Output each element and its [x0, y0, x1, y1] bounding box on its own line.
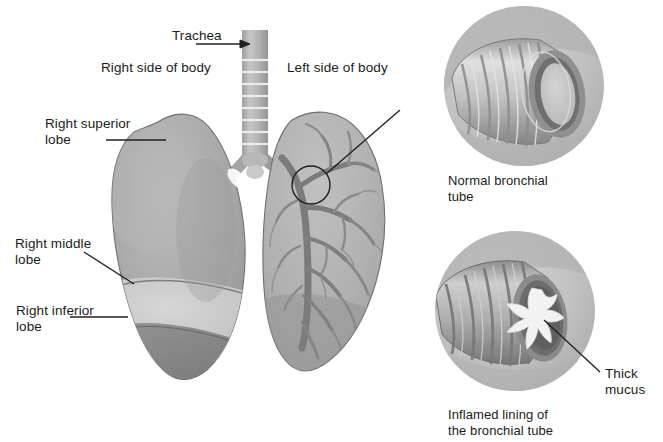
caption-inflamed-lining: Inflamed lining of the bronchial tube: [448, 407, 553, 438]
caption-normal-bronchial-tube: Normal bronchial tube: [448, 173, 548, 204]
label-left-side-of-body: Left side of body: [287, 60, 388, 76]
lung-anatomy-figure: Trachea Right side of body Left side of …: [0, 0, 663, 442]
label-thick-mucus: Thick mucus: [605, 366, 645, 397]
label-right-middle-lobe: Right middle lobe: [15, 236, 91, 267]
left-lung-graphic: [262, 112, 392, 400]
normal-bronchial-tube-inset: [444, 6, 604, 166]
label-right-inferior-lobe: Right inferior lobe: [16, 303, 94, 334]
inflamed-bronchial-tube-inset: [435, 231, 600, 391]
label-right-side-of-body: Right side of body: [101, 60, 211, 76]
label-right-superior-lobe: Right superior lobe: [45, 116, 130, 147]
right-lung-graphic: [100, 114, 252, 400]
label-trachea: Trachea: [172, 28, 222, 44]
